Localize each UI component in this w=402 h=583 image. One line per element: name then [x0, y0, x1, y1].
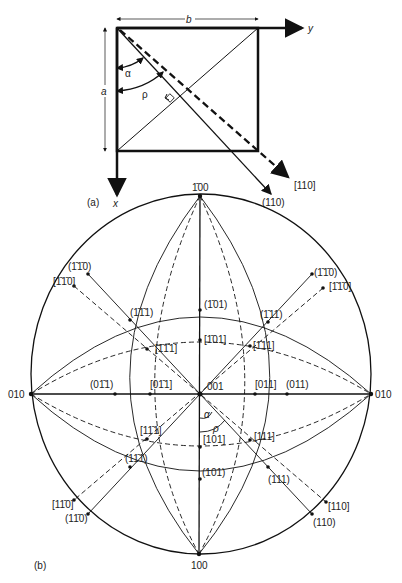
- label-plane-110: (110): [313, 517, 336, 528]
- primitive-circle: [31, 194, 371, 554]
- pole-right: 010: [375, 389, 392, 400]
- panel-b-label: (b): [34, 560, 46, 571]
- label-plane-101: (101): [202, 467, 225, 478]
- label-dir-1m10: [11̄0]: [52, 499, 74, 510]
- zone-circle-right-dashed: [199, 196, 245, 554]
- label-plane-111: (111): [268, 474, 290, 485]
- label-dir-m111: [1̄11]: [253, 340, 275, 351]
- plane-110-label: (110): [262, 197, 285, 208]
- label-dir-110: [110]: [328, 501, 350, 512]
- label-plane-1m11: (11̄1): [125, 453, 148, 464]
- direction-110-arrow: [120, 30, 288, 177]
- label-plane-1m10: (11̄0): [65, 513, 88, 524]
- label-dir-101: [101]: [203, 434, 225, 445]
- label-plane-m1m10-left: (1̄1̄0): [68, 261, 91, 272]
- rho-arc: [117, 72, 163, 91]
- panel-b-stereogram: [31, 194, 371, 554]
- pole-left: 010: [8, 389, 25, 400]
- label-plane-m1m11: (1̄1̄1): [130, 307, 153, 318]
- label-plane-011: (011): [286, 379, 309, 390]
- zone-circle-upper: [31, 317, 371, 394]
- alpha-label: α: [125, 68, 131, 79]
- label-rho: ρ: [212, 423, 219, 434]
- label-alpha: α: [204, 409, 210, 420]
- label-dir-1m11: [11̄1]: [140, 425, 162, 436]
- y-axis-label: y: [307, 23, 314, 34]
- label-plane-m101: (1̄01): [204, 299, 227, 310]
- alpha-arc: [117, 58, 143, 68]
- zone-circle-right-outer: [199, 196, 270, 554]
- dimension-a-label: a: [101, 86, 107, 97]
- label-dir-111: [111]: [254, 431, 275, 442]
- panel-a-unit-cell: b a y x α ρ [110] (110) (a): [87, 13, 316, 209]
- zone-circle-left-outer: [130, 196, 200, 554]
- crystallography-figure: b a y x α ρ [110] (110) (a): [0, 0, 402, 583]
- direction-110-label: [110]: [294, 180, 316, 191]
- label-dir-011: [011]: [255, 379, 277, 390]
- zone-circle-lower: [31, 394, 371, 471]
- label-plane-m1m10-right: (1̄1̄0): [314, 267, 337, 278]
- zone-circle-upper-dashed: [31, 342, 371, 394]
- pole-bottom: 100: [191, 560, 208, 571]
- label-dir-0m11: [01̄1]: [150, 379, 172, 390]
- zone-circle-lower-dashed: [31, 394, 371, 446]
- x-axis-label: x: [112, 198, 119, 209]
- rho-label: ρ: [142, 89, 148, 100]
- panel-a-label: (a): [87, 197, 99, 208]
- pole-center: 001: [207, 381, 224, 392]
- label-dir-m1m10-left: [1̄1̄0]: [53, 276, 75, 287]
- meridian-line: [199, 196, 200, 554]
- label-dir-m1m10-right: [1̄1̄0]: [329, 281, 351, 292]
- plane-normal-arrow: [117, 28, 271, 194]
- dimension-b-label: b: [186, 14, 192, 25]
- label-dir-m101: [1̄01]: [204, 334, 226, 345]
- pole-top: 1̄00: [192, 182, 209, 193]
- label-plane-0m11: (01̄1): [90, 379, 113, 390]
- label-plane-m111: (1̄11): [260, 309, 283, 320]
- label-dir-m1m11: [1̄1̄1]: [155, 343, 177, 354]
